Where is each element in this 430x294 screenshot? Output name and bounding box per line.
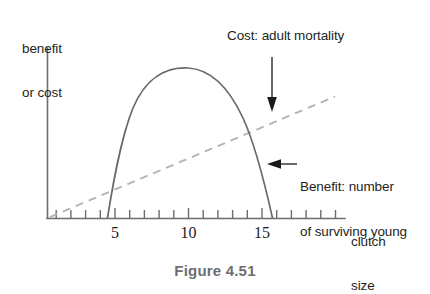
- x-axis-ticks: [56, 208, 335, 218]
- x-tick-label-10: 10: [181, 224, 197, 242]
- x-axis-title-line2: size: [351, 279, 386, 294]
- benefit-annotation-label: Benefit: number of surviving young: [300, 149, 407, 269]
- y-axis-title-line2: or cost: [22, 86, 62, 101]
- cost-annotation-label: Cost: adult mortality: [227, 28, 344, 43]
- x-tick-label-5: 5: [111, 224, 119, 242]
- y-axis-title-line1: benefit: [22, 42, 62, 57]
- benefit-annotation-arrow-icon: [267, 159, 297, 169]
- benefit-series-curve: [108, 68, 273, 218]
- benefit-annotation-line2: of surviving young: [300, 224, 407, 239]
- y-axis-title: benefit or cost: [22, 13, 62, 129]
- cost-annotation-arrow-icon: [267, 57, 277, 112]
- figure-container: benefit or cost clutch size 5 10 15 Cost…: [0, 0, 430, 294]
- benefit-annotation-line1: Benefit: number: [300, 179, 407, 194]
- cost-series-line: [50, 97, 335, 218]
- figure-caption: Figure 4.51: [0, 262, 430, 279]
- x-tick-label-15: 15: [254, 224, 270, 242]
